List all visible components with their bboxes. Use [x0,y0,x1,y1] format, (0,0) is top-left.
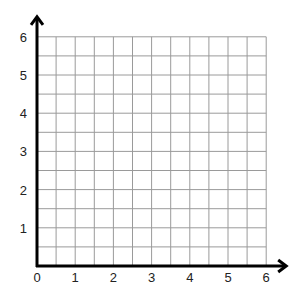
y-tick-label: 4 [20,106,27,121]
grid-lines [37,37,266,266]
x-tick-label: 1 [72,270,79,285]
y-tick-label: 6 [20,30,27,45]
coordinate-grid: 0123456 123456 [0,0,299,299]
x-tick-label: 6 [263,270,270,285]
y-tick-label: 5 [20,68,27,83]
x-tick-label: 2 [110,270,117,285]
x-tick-label: 5 [224,270,231,285]
x-tick-label: 0 [33,270,40,285]
y-tick-label: 3 [20,144,27,159]
x-tick-label: 3 [148,270,155,285]
axes [31,17,286,272]
x-tick-label: 4 [186,270,193,285]
y-tick-label: 1 [20,221,27,236]
y-tick-labels: 123456 [20,30,27,236]
x-tick-labels: 0123456 [33,270,269,285]
y-tick-label: 2 [20,183,27,198]
